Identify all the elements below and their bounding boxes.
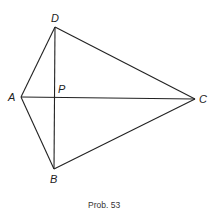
segment-BA bbox=[21, 97, 54, 169]
diagonal-AC bbox=[21, 97, 195, 99]
segment-DC bbox=[55, 27, 195, 99]
label-P: P bbox=[58, 83, 66, 95]
label-B: B bbox=[50, 173, 57, 185]
label-A: A bbox=[7, 91, 15, 103]
label-D: D bbox=[51, 12, 59, 24]
diagonal-DB bbox=[54, 27, 55, 169]
kite-diagram: D A P C B Prob. 53 bbox=[0, 0, 219, 216]
segment-AD bbox=[21, 27, 55, 97]
segment-CB bbox=[54, 99, 195, 169]
label-C: C bbox=[199, 93, 207, 105]
caption: Prob. 53 bbox=[88, 200, 120, 210]
